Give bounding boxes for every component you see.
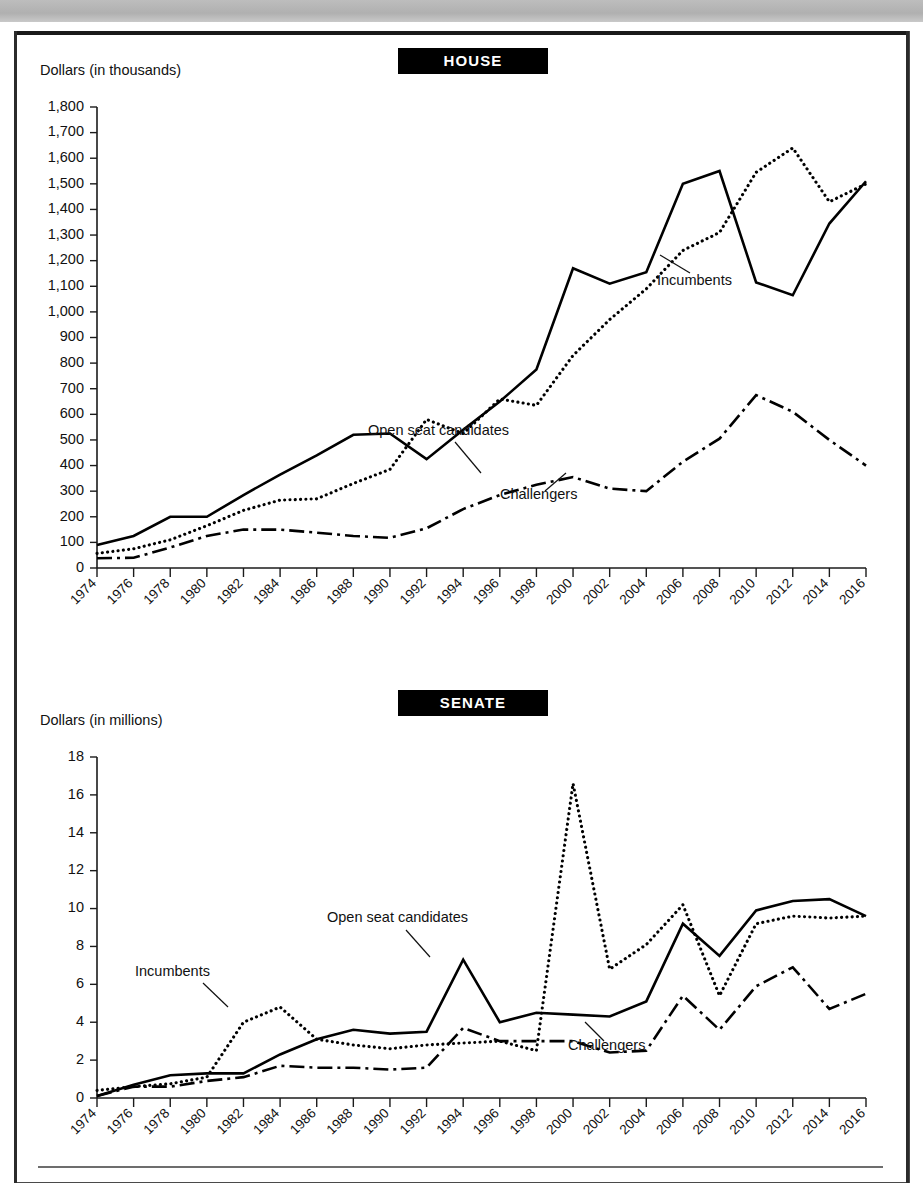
y-tick-label: 0 [76,1089,84,1105]
y-tick-label: 600 [60,405,84,421]
x-tick-label: 1988 [324,1106,356,1138]
house-section-badge: HOUSE [398,48,548,74]
y-tick-label: 12 [68,861,84,877]
annotation-leader-open_seat [406,930,430,957]
x-tick-label: 1984 [250,1105,282,1137]
y-tick-label: 6 [76,975,84,991]
series-line-challengers [97,967,866,1096]
x-tick-label: 1992 [397,1106,429,1138]
annotation-label-challengers: Challengers [500,486,577,502]
series-line-incumbents [97,148,866,553]
senate-line-chart: 0246810121416181974197619781980198219841… [0,745,923,1145]
annotation-leader-open_seat [455,442,481,473]
x-tick-label: 2002 [580,1106,612,1138]
senate-chart-svg: 0246810121416181974197619781980198219841… [0,745,923,1145]
x-tick-label: 1978 [141,1106,173,1138]
house-y-axis-title: Dollars (in thousands) [40,62,181,78]
y-tick-label: 2 [76,1051,84,1067]
y-tick-label: 1,800 [48,98,84,114]
annotation-label-incumbents: Incumbents [135,963,210,979]
y-tick-label: 200 [60,508,84,524]
x-tick-label: 2010 [726,1106,758,1138]
page-border-top [15,31,909,35]
x-tick-label: 1990 [360,1106,392,1138]
x-tick-label: 2012 [763,1106,795,1138]
y-tick-label: 400 [60,456,84,472]
annotation-label-incumbents: Incumbents [657,272,732,288]
scanned-page: HOUSE Dollars (in thousands) SENATE Doll… [0,0,923,1197]
y-tick-label: 900 [60,328,84,344]
x-tick-label: 2016 [836,1106,868,1138]
x-tick-label: 1982 [214,1106,246,1138]
series-line-challengers [97,395,866,558]
annotation-leader-incumbents [203,983,228,1007]
x-tick-label: 2000 [543,1106,575,1138]
x-tick-label: 1976 [104,1106,136,1138]
y-tick-label: 1,700 [48,123,84,139]
y-tick-label: 700 [60,380,84,396]
y-tick-label: 1,600 [48,149,84,165]
scan-artifact-edge [0,22,923,28]
y-tick-label: 10 [68,899,84,915]
y-tick-label: 1,200 [48,251,84,267]
x-tick-label: 2006 [653,1106,685,1138]
x-tick-label: 1974 [67,1105,99,1137]
y-tick-label: 8 [76,937,84,953]
series-line-incumbents [97,784,866,1091]
y-tick-label: 500 [60,431,84,447]
y-tick-label: 800 [60,354,84,370]
y-tick-label: 1,500 [48,175,84,191]
senate-y-axis-title: Dollars (in millions) [40,712,162,728]
scan-artifact-bar [0,0,923,22]
y-tick-label: 16 [68,786,84,802]
y-tick-label: 0 [76,559,84,575]
x-tick-label: 1994 [433,1105,465,1137]
x-tick-label: 2004 [617,1105,649,1137]
x-tick-label: 1986 [287,1106,319,1138]
y-tick-label: 14 [68,824,84,840]
y-tick-label: 1,100 [48,277,84,293]
page-bottom-rule [38,1166,883,1168]
house-chart-svg: 01002003004005006007008009001,0001,1001,… [0,95,923,595]
annotation-label-open_seat: Open seat candidates [368,422,509,438]
series-line-open-seat-candidates [97,171,866,545]
x-tick-label: 2014 [800,1105,832,1137]
x-tick-label: 2008 [690,1106,722,1138]
senate-section-badge: SENATE [398,690,548,716]
y-tick-label: 100 [60,533,84,549]
annotation-label-challengers: Challengers [568,1037,645,1053]
y-tick-label: 4 [76,1013,84,1029]
y-tick-label: 1,300 [48,226,84,242]
y-tick-label: 1,400 [48,200,84,216]
annotation-label-open_seat: Open seat candidates [327,909,468,925]
y-tick-label: 1,000 [48,303,84,319]
x-tick-label: 1998 [507,1106,539,1138]
x-tick-label: 1996 [470,1106,502,1138]
x-tick-label: 1980 [177,1106,209,1138]
house-line-chart: 01002003004005006007008009001,0001,1001,… [0,95,923,595]
y-tick-label: 300 [60,482,84,498]
y-tick-label: 18 [68,748,84,764]
